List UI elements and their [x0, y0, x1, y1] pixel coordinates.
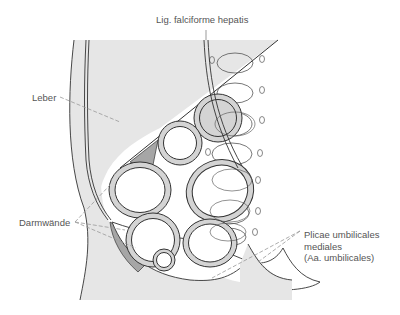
ring-small: [153, 249, 175, 271]
label-darmwaende: Darmwände: [19, 217, 70, 228]
ring-left-big: [109, 162, 171, 218]
label-leber: Leber: [32, 92, 56, 103]
label-plicae-line2: mediales: [304, 241, 380, 253]
label-lig-falciforme: Lig. falciforme hepatis: [156, 14, 248, 25]
ring-lower-right: [183, 219, 237, 267]
label-plicae: Plicae umbilicales mediales (Aa. umbilic…: [304, 229, 380, 264]
label-plicae-line1: Plicae umbilicales: [304, 229, 380, 241]
anatomical-diagram: [0, 0, 400, 315]
ring-upper-mid: [158, 121, 202, 165]
label-plicae-line3: (Aa. umbilicales): [304, 252, 380, 264]
